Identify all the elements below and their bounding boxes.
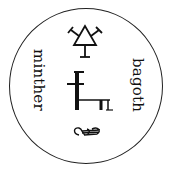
loop-sigil-icon [75, 128, 101, 135]
seal-glyphs [0, 0, 174, 173]
left-word-label: minther [30, 49, 48, 111]
right-word-label: bagoth [129, 58, 147, 112]
ladder-sigil-icon [67, 72, 113, 110]
triangle-sigil-icon [68, 26, 102, 57]
